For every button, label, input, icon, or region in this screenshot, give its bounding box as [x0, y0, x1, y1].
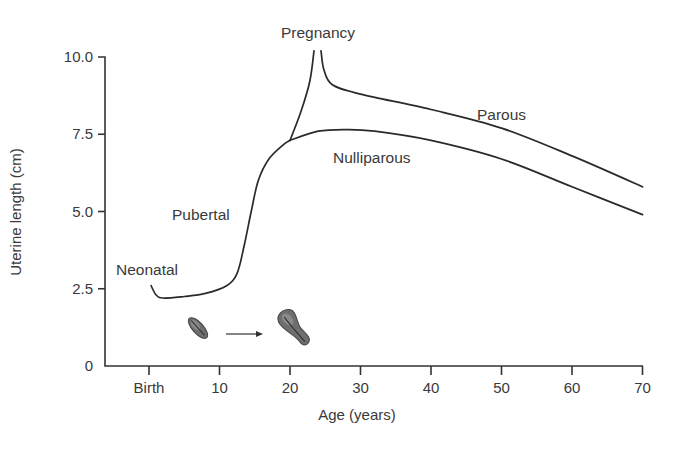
x-tick-label: 10	[211, 379, 228, 396]
x-axis-title: Age (years)	[318, 406, 396, 423]
x-tick-label: 60	[564, 379, 581, 396]
curve-nulliparous	[290, 130, 643, 215]
y-tick-label: 2.5	[72, 280, 93, 297]
axes: 02.55.07.510.0 Birth10203040506070	[64, 48, 651, 396]
x-tick-label: 20	[282, 379, 299, 396]
x-tick-label: 70	[634, 379, 651, 396]
prepubertal-uterus-icon	[185, 315, 211, 342]
y-ticks: 02.55.07.510.0	[64, 48, 105, 374]
label-parous: Parous	[477, 106, 526, 123]
x-tick-label: 50	[493, 379, 510, 396]
curve-pregnancy	[290, 51, 314, 141]
label-pregnancy: Pregnancy	[281, 24, 355, 41]
y-tick-label: 0	[85, 357, 93, 374]
label-neonatal: Neonatal	[116, 261, 178, 278]
x-tick-label: Birth	[134, 379, 165, 396]
y-tick-label: 7.5	[72, 125, 93, 142]
x-ticks: Birth10203040506070	[134, 366, 651, 396]
label-pubertal: Pubertal	[172, 206, 230, 223]
y-tick-label: 10.0	[64, 48, 93, 65]
label-nulliparous: Nulliparous	[333, 149, 411, 166]
y-tick-label: 5.0	[72, 203, 93, 220]
arrow-icon	[226, 331, 263, 337]
x-tick-label: 30	[352, 379, 369, 396]
uterine-length-chart: 02.55.07.510.0 Birth10203040506070 Age (…	[0, 0, 683, 453]
curves	[151, 51, 642, 298]
y-axis-title: Uterine length (cm)	[7, 148, 24, 276]
adult-uterus-icon	[274, 306, 315, 349]
x-tick-label: 40	[423, 379, 440, 396]
